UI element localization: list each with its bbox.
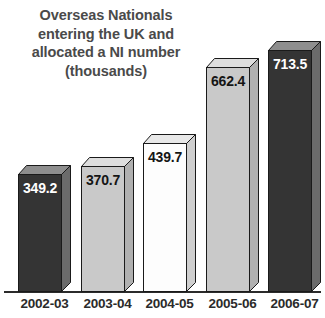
bar-chart: Overseas Nationals entering the UK and a… bbox=[0, 0, 325, 318]
x-axis-label-2004-05: 2004-05 bbox=[134, 296, 205, 311]
bar-value-label: 349.2 bbox=[18, 180, 62, 196]
bar-value-label: 662.4 bbox=[206, 73, 250, 89]
bar-side-face bbox=[61, 165, 71, 292]
x-axis-label-2006-07: 2006-07 bbox=[259, 296, 325, 311]
bar-front-face bbox=[268, 50, 312, 292]
bar-side-face bbox=[249, 58, 259, 292]
x-axis-label-2003-04: 2003-04 bbox=[72, 296, 143, 311]
bar-value-label: 713.5 bbox=[268, 56, 312, 72]
bar-value-label: 370.7 bbox=[81, 172, 125, 188]
bar-side-face bbox=[311, 41, 321, 292]
plot-area: 349.2370.7439.7662.4713.5 bbox=[0, 0, 325, 292]
bar-2002-03: 349.2 bbox=[18, 165, 71, 292]
bar-front-face bbox=[143, 143, 187, 292]
bar-2006-07: 713.5 bbox=[268, 41, 321, 292]
x-axis-tick-labels: 2002-032003-042004-052005-062006-07 bbox=[0, 296, 325, 316]
bar-value-label: 439.7 bbox=[143, 149, 187, 165]
bar-2004-05: 439.7 bbox=[143, 134, 196, 292]
bar-front-face bbox=[206, 67, 250, 292]
bar-2003-04: 370.7 bbox=[81, 157, 134, 292]
x-axis-label-2002-03: 2002-03 bbox=[9, 296, 80, 311]
bar-2005-06: 662.4 bbox=[206, 58, 259, 292]
bar-side-face bbox=[124, 157, 134, 292]
bar-side-face bbox=[186, 134, 196, 292]
x-axis-label-2005-06: 2005-06 bbox=[197, 296, 268, 311]
